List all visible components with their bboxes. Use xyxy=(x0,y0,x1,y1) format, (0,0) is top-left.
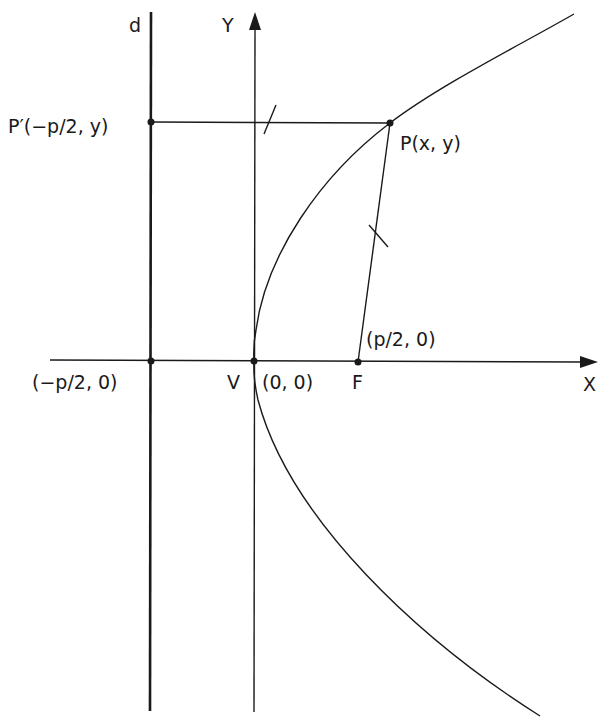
x-axis-arrow-icon xyxy=(580,356,598,368)
point-p xyxy=(387,120,394,127)
label-focus-coords: (p/2, 0) xyxy=(366,330,436,349)
segment-p-prime-to-p xyxy=(151,122,390,123)
label-x-axis: X xyxy=(583,375,596,394)
parabola-diagram: d Y P′(−p/2, y) P(x, y) (p/2, 0) (−p/2, … xyxy=(0,0,609,725)
point-focus xyxy=(355,359,362,366)
equal-tick-mark-2 xyxy=(369,225,388,247)
label-vertex-coords: (0, 0) xyxy=(262,373,313,392)
label-directrix: d xyxy=(129,16,141,35)
parabola-curve xyxy=(254,14,574,716)
label-directrix-point: (−p/2, 0) xyxy=(32,373,117,392)
label-vertex: V xyxy=(227,373,240,392)
label-p-prime: P′(−p/2, y) xyxy=(8,117,108,136)
label-y-axis: Y xyxy=(222,16,234,35)
y-axis-arrow-icon xyxy=(249,12,261,30)
label-p: P(x, y) xyxy=(400,134,461,153)
label-focus: F xyxy=(352,373,363,392)
segment-p-to-f xyxy=(358,123,390,362)
point-p-prime xyxy=(148,119,155,126)
point-directrix-axis xyxy=(148,358,155,365)
diagram-canvas xyxy=(0,0,609,725)
equal-tick-mark-1 xyxy=(264,105,276,134)
point-vertex xyxy=(251,358,258,365)
x-axis xyxy=(50,360,582,362)
